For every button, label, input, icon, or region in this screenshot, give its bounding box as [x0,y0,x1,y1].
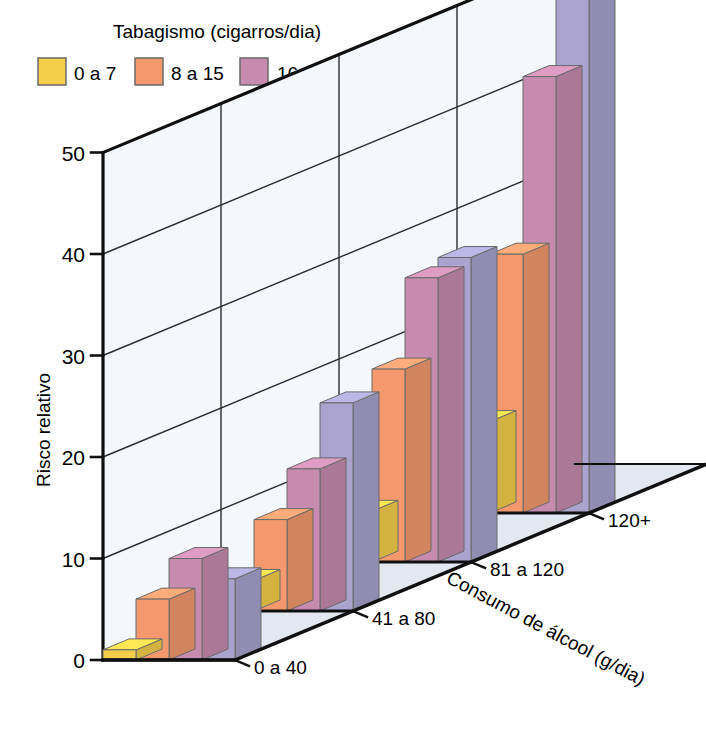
relative-risk-3d-bar-chart: Tabagismo (cigarros/dia) 0 a 7 8 a 15 16… [0,0,706,737]
bar-side-2-3 [471,247,497,563]
y-tick-label-30: 30 [62,345,85,368]
y-tick-label-40: 40 [62,243,85,266]
z-tick-3 [589,513,603,519]
z-tick-0 [235,660,249,666]
z-tick-label-3: 120+ [608,510,651,531]
legend-swatch-0-a-7 [38,58,66,85]
bar-side-1-2 [320,458,346,611]
bar-side-2-2 [438,267,464,562]
legend-swatch-16-a-25 [240,58,268,85]
plot-area: 010203040500 a 4041 a 8081 a 120120+ [62,0,706,678]
y-tick-label-0: 0 [73,649,85,672]
z-tick-2 [471,562,485,568]
bar-side-3-2 [556,66,582,513]
legend-item-0[interactable]: 0 a 7 [38,58,116,85]
bar-side-3-1 [523,243,549,513]
bar-side-1-1 [287,509,313,611]
z-axis-title: Consumo de álcool (g/dia) [443,567,649,690]
legend-label-0-a-7: 0 a 7 [74,63,116,84]
bar-side-0-2 [202,548,228,661]
z-tick-1 [353,611,367,617]
z-tick-label-0: 0 a 40 [254,657,307,678]
legend-item-1[interactable]: 8 a 15 [135,58,224,85]
chart-container: Tabagismo (cigarros/dia) 0 a 7 8 a 15 16… [0,0,706,737]
z-tick-label-1: 41 a 80 [372,608,435,629]
bar-side-3-3 [589,0,615,513]
bar-side-0-3 [235,568,261,660]
y-tick-label-50: 50 [62,142,85,165]
y-tick-label-20: 20 [62,446,85,469]
bar-side-1-3 [353,392,379,611]
legend-label-8-a-15: 8 a 15 [171,63,224,84]
legend-swatch-8-a-15 [135,58,163,85]
bar-side-2-1 [405,358,431,562]
z-tick-label-2: 81 a 120 [490,559,564,580]
bar-side-0-1 [169,588,195,660]
legend-title: Tabagismo (cigarros/dia) [113,21,321,42]
y-tick-label-10: 10 [62,548,85,571]
y-axis-title: Risco relativo [33,373,54,487]
